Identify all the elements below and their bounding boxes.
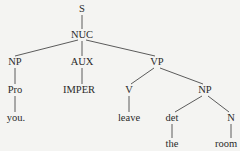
- edge-NUC-NP: [15, 40, 78, 56]
- node-NP-subject: NP: [8, 57, 21, 68]
- node-N: N: [227, 113, 235, 124]
- node-IMPER: IMPER: [63, 85, 95, 96]
- node-S: S: [79, 4, 85, 15]
- leaf-you: you.: [7, 113, 25, 124]
- node-NP-object: NP: [198, 85, 211, 96]
- leaf-the: the: [166, 139, 179, 150]
- syntax-tree-diagram: S NUC NP AUX VP Pro IMPER V NP you. leav…: [0, 0, 240, 151]
- edge-NP-N: [208, 96, 229, 112]
- edge-NP-det: [175, 96, 202, 112]
- tree-edges: [0, 0, 240, 151]
- node-VP: VP: [150, 57, 163, 68]
- node-NUC: NUC: [71, 30, 93, 41]
- edge-NUC-VP: [86, 40, 155, 56]
- edge-VP-V: [131, 68, 154, 84]
- edge-VP-NP: [160, 68, 203, 84]
- leaf-room: room: [215, 139, 237, 150]
- node-V: V: [125, 85, 133, 96]
- node-Pro: Pro: [8, 85, 23, 96]
- leaf-leave: leave: [118, 113, 140, 124]
- node-det: det: [166, 113, 179, 124]
- node-AUX: AUX: [71, 57, 94, 68]
